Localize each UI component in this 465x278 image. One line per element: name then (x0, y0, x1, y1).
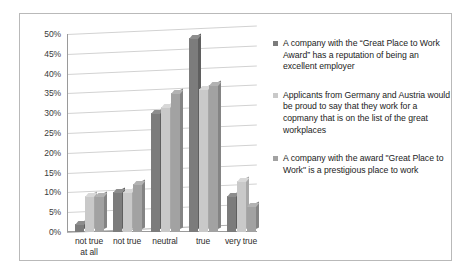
y-axis-tick-label: 25% (44, 128, 61, 138)
bar-side-face (180, 89, 183, 229)
bar-front-face (85, 196, 94, 232)
bar-front-face (237, 181, 246, 232)
chart-frame: 50%45%40%35%30%25%20%15%10%5%0% not true… (19, 13, 452, 261)
bar (75, 224, 84, 232)
x-axis-category-label: neutral (144, 236, 186, 247)
bar-group (227, 34, 265, 232)
x-axis-category-label: true (182, 236, 224, 247)
y-axis-tick-label: 0% (49, 227, 61, 237)
bar-front-face (123, 192, 132, 232)
bar-front-face (75, 224, 84, 232)
legend-entry[interactable]: Applicants from Germany and Austria woul… (273, 90, 451, 136)
y-axis-tick-label: 15% (44, 168, 61, 178)
bar-front-face (227, 196, 236, 232)
legend-color-swatch (273, 93, 278, 98)
bar-front-face (189, 38, 198, 232)
legend-entry[interactable]: A company with the “Great Place to Work … (273, 38, 451, 73)
bar (199, 89, 208, 232)
bar (209, 85, 218, 232)
y-axis-tick-label: 30% (44, 108, 61, 118)
bar-group (151, 34, 189, 232)
chart-legend: A company with the “Great Place to Work … (273, 38, 451, 193)
bar-group (75, 34, 113, 232)
y-axis-tick-label: 35% (44, 88, 61, 98)
bar-front-face (133, 184, 142, 232)
bar (151, 113, 160, 232)
bar (133, 184, 142, 232)
x-axis-category-label: not true (106, 236, 148, 247)
y-axis-tick-label: 5% (49, 207, 61, 217)
legend-color-swatch (273, 156, 278, 161)
bar-front-face (113, 192, 122, 232)
bar (247, 206, 256, 232)
bar-front-face (161, 107, 170, 232)
x-axis-category-label: very true (220, 236, 262, 247)
bar-front-face (95, 196, 104, 232)
bar-front-face (171, 93, 180, 232)
bar (85, 196, 94, 232)
bar-front-face (247, 206, 256, 232)
bar-front-face (209, 85, 218, 232)
y-axis-tick-label: 20% (44, 148, 61, 158)
bar-group (113, 34, 151, 232)
bar-side-face (218, 81, 221, 229)
bar (161, 107, 170, 232)
legend-label: Applicants from Germany and Austria woul… (283, 90, 450, 135)
y-axis-tick-label: 45% (44, 49, 61, 59)
bar-side-face (142, 180, 145, 229)
bar-front-face (199, 89, 208, 232)
y-axis-line (67, 34, 68, 232)
y-axis-tick-label: 50% (44, 29, 61, 39)
bar-group (189, 34, 227, 232)
legend-label: A company with the “Great Place to Work … (283, 38, 440, 71)
bar (123, 192, 132, 232)
bar (171, 93, 180, 232)
plot-area: 50%45%40%35%30%25%20%15%10%5%0% (67, 25, 257, 232)
legend-entry[interactable]: A company with the award "Great Place to… (273, 153, 451, 176)
x-axis-category-label: not true at all (68, 236, 110, 257)
bar (113, 192, 122, 232)
x-axis-category-labels: not true at allnot trueneutraltruevery t… (67, 236, 263, 264)
y-axis-tick-label: 10% (44, 187, 61, 197)
y-axis-tick-label: 40% (44, 69, 61, 79)
legend-label: A company with the award "Great Place to… (283, 153, 443, 175)
bar-side-face (104, 192, 107, 229)
bar (189, 38, 198, 232)
bar-front-face (151, 113, 160, 232)
bar (237, 181, 246, 232)
bar (227, 196, 236, 232)
legend-color-swatch (273, 41, 278, 46)
bar (95, 196, 104, 232)
